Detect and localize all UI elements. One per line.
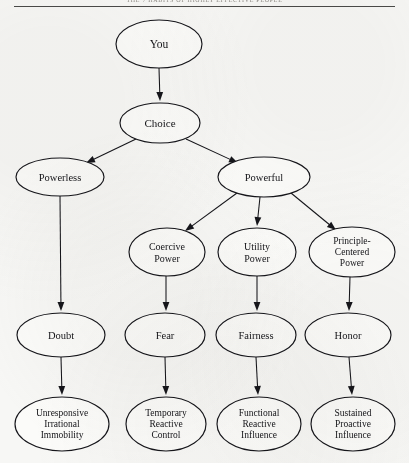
edge-coercive-to-fear — [163, 276, 170, 311]
edge-choice-to-powerless — [86, 139, 136, 163]
edge-principle-to-honor — [346, 277, 353, 311]
node-fairness: Fairness — [216, 313, 296, 357]
node-doubt: Doubt — [17, 313, 105, 357]
node-layer: YouChoicePowerlessPowerfulCoercivePowerU… — [15, 20, 395, 451]
node-coercive: CoercivePower — [129, 228, 205, 276]
node-label-powerless: Powerless — [39, 172, 82, 183]
edge-fairness-to-funcinf — [254, 357, 261, 395]
edge-powerful-to-coercive — [185, 193, 237, 231]
node-powerful: Powerful — [218, 157, 310, 197]
edge-choice-to-powerful — [186, 139, 238, 163]
edge-you-to-choice — [156, 68, 163, 101]
node-label-fairness: Fairness — [239, 330, 274, 341]
node-label-fear: Fear — [156, 330, 175, 341]
node-control: TemporaryReactiveControl — [126, 397, 206, 451]
edge-fear-to-control — [162, 357, 169, 395]
node-choice: Choice — [120, 103, 200, 143]
node-powerless: Powerless — [16, 158, 104, 196]
edge-utility-to-fairness — [254, 276, 261, 311]
node-label-choice: Choice — [144, 117, 175, 129]
node-principle: Principle-CenteredPower — [309, 227, 395, 277]
node-label-honor: Honor — [335, 330, 362, 341]
edge-doubt-to-immobility — [58, 357, 65, 395]
edge-powerless-to-doubt — [58, 196, 65, 311]
edge-honor-to-sustinf — [348, 357, 355, 395]
node-funcinf: FunctionalReactiveInfluence — [217, 397, 301, 451]
header-rule — [14, 6, 395, 7]
node-you: You — [116, 20, 202, 68]
node-label-you: You — [150, 38, 169, 50]
running-head: THE 7 HABITS OF HIGHLY EFFECTIVE PEOPLE — [0, 0, 409, 3]
node-utility: UtilityPower — [218, 228, 296, 276]
book-page: THE 7 HABITS OF HIGHLY EFFECTIVE PEOPLE … — [0, 0, 409, 463]
node-honor: Honor — [305, 313, 391, 357]
node-label-sustinf: SustainedProactiveInfluence — [335, 408, 372, 440]
node-sustinf: SustainedProactiveInfluence — [311, 397, 395, 451]
node-immobility: UnresponsiveIrrationalImmobility — [15, 397, 109, 451]
node-label-utility: UtilityPower — [244, 241, 271, 264]
page-header: THE 7 HABITS OF HIGHLY EFFECTIVE PEOPLE — [0, 0, 409, 9]
edge-powerful-to-utility — [255, 197, 262, 226]
node-fear: Fear — [125, 313, 205, 357]
power-choice-flowchart: YouChoicePowerlessPowerfulCoercivePowerU… — [0, 0, 409, 463]
node-label-powerful: Powerful — [245, 172, 284, 183]
edge-powerful-to-principle — [291, 193, 336, 230]
node-label-doubt: Doubt — [48, 330, 74, 341]
node-label-funcinf: FunctionalReactiveInfluence — [239, 408, 280, 440]
